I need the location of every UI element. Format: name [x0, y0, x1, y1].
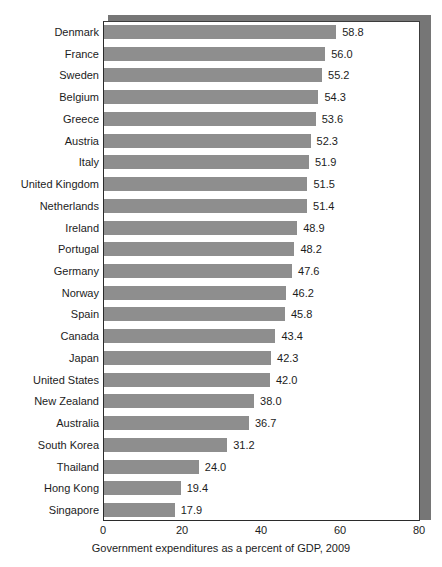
x-tick-label: 60	[334, 524, 346, 537]
bar-value-label: 42.0	[276, 374, 297, 386]
x-axis-label: Government expenditures as a percent of …	[0, 541, 442, 555]
bar-chart-figure: Denmark58.8France56.0Sweden55.2Belgium54…	[0, 0, 442, 567]
bar-value-label: 42.3	[277, 352, 298, 364]
bar-value-label: 54.3	[324, 91, 345, 103]
bar-value-label: 38.0	[260, 395, 281, 407]
bar-value-label: 52.3	[317, 135, 338, 147]
bar-value-label: 51.9	[315, 156, 336, 168]
bar-row: United Kingdom51.5	[0, 173, 442, 195]
category-label: Spain	[71, 308, 99, 320]
bar	[104, 460, 199, 474]
bar-value-label: 46.2	[292, 287, 313, 299]
bar-value-label: 43.4	[281, 330, 302, 342]
category-label: Greece	[63, 113, 99, 125]
category-label: Singapore	[49, 504, 99, 516]
x-tick-label: 80	[413, 524, 425, 537]
bar-row: Netherlands51.4	[0, 195, 442, 217]
bar	[104, 90, 318, 104]
bar-value-label: 55.2	[328, 69, 349, 81]
category-label: South Korea	[38, 439, 99, 451]
bar-row: United States42.0	[0, 369, 442, 391]
bar	[104, 155, 309, 169]
bar-value-label: 24.0	[205, 461, 226, 473]
bar-row: Japan42.3	[0, 347, 442, 369]
bar-row: New Zealand38.0	[0, 391, 442, 413]
bar	[104, 47, 325, 61]
bar-row: Norway46.2	[0, 282, 442, 304]
x-tick-label: 20	[176, 524, 188, 537]
bar-row: Hong Kong19.4	[0, 478, 442, 500]
category-label: Belgium	[59, 91, 99, 103]
bar-value-label: 36.7	[255, 417, 276, 429]
bar-row: Greece53.6	[0, 108, 442, 130]
bar	[104, 264, 292, 278]
category-label: United Kingdom	[21, 178, 99, 190]
bar	[104, 112, 316, 126]
bar-value-label: 19.4	[187, 482, 208, 494]
category-label: Austria	[65, 135, 99, 147]
category-label: Thailand	[57, 461, 99, 473]
bar	[104, 199, 307, 213]
bar-value-label: 53.6	[322, 113, 343, 125]
bar-value-label: 51.5	[313, 178, 334, 190]
bar	[104, 373, 270, 387]
bar-row: Portugal48.2	[0, 238, 442, 260]
bar-row: Australia36.7	[0, 412, 442, 434]
bar-value-label: 45.8	[291, 308, 312, 320]
bar	[104, 221, 297, 235]
bar-row: Sweden55.2	[0, 64, 442, 86]
bar	[104, 286, 286, 300]
bar-value-label: 48.9	[303, 222, 324, 234]
bar	[104, 25, 336, 39]
bar-row: Singapore17.9	[0, 499, 442, 521]
bar	[104, 481, 181, 495]
bar-row: France56.0	[0, 43, 442, 65]
bar	[104, 394, 254, 408]
bar-rows: Denmark58.8France56.0Sweden55.2Belgium54…	[0, 21, 442, 521]
x-tick-label: 0	[100, 524, 106, 537]
category-label: France	[65, 48, 99, 60]
bar	[104, 416, 249, 430]
bar	[104, 134, 311, 148]
bar	[104, 503, 175, 517]
category-label: Netherlands	[40, 200, 99, 212]
bar-value-label: 47.6	[298, 265, 319, 277]
bar-value-label: 48.2	[300, 243, 321, 255]
category-label: Norway	[62, 287, 99, 299]
bar	[104, 68, 322, 82]
category-label: Italy	[79, 156, 99, 168]
bar	[104, 438, 227, 452]
bar-value-label: 51.4	[313, 200, 334, 212]
category-label: Germany	[54, 265, 99, 277]
bar	[104, 177, 307, 191]
bar-row: Belgium54.3	[0, 86, 442, 108]
category-label: Australia	[56, 417, 99, 429]
bar-value-label: 58.8	[342, 26, 363, 38]
category-label: New Zealand	[34, 395, 99, 407]
bar-value-label: 56.0	[331, 48, 352, 60]
bar	[104, 242, 294, 256]
category-label: United States	[33, 374, 99, 386]
bar-row: South Korea31.2	[0, 434, 442, 456]
bar	[104, 329, 275, 343]
bar-value-label: 17.9	[181, 504, 202, 516]
bar-row: Thailand24.0	[0, 456, 442, 478]
category-label: Denmark	[54, 26, 99, 38]
bar-row: Canada43.4	[0, 325, 442, 347]
bar-row: Ireland48.9	[0, 217, 442, 239]
bar-row: Germany47.6	[0, 260, 442, 282]
category-label: Hong Kong	[44, 482, 99, 494]
category-label: Ireland	[65, 222, 99, 234]
category-label: Japan	[69, 352, 99, 364]
bar-row: Austria52.3	[0, 130, 442, 152]
x-tick-label: 40	[255, 524, 267, 537]
category-label: Portugal	[58, 243, 99, 255]
bar	[104, 307, 285, 321]
bar-row: Spain45.8	[0, 304, 442, 326]
bar-row: Denmark58.8	[0, 21, 442, 43]
x-axis-ticks: 020406080	[0, 524, 442, 542]
bar-row: Italy51.9	[0, 151, 442, 173]
bar	[104, 351, 271, 365]
bar-value-label: 31.2	[233, 439, 254, 451]
category-label: Sweden	[59, 69, 99, 81]
